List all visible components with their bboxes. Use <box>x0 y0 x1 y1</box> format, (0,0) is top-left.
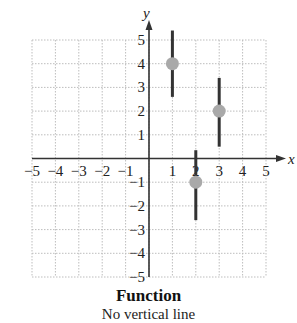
y-tick-label: 3 <box>138 79 146 95</box>
y-tick-label: −3 <box>129 222 145 238</box>
y-tick-label: −2 <box>129 198 145 214</box>
y-tick-label: 1 <box>138 127 146 143</box>
y-tick-label: −4 <box>129 245 145 261</box>
chart-subtitle: No vertical line <box>0 306 297 323</box>
y-axis-arrow-icon <box>146 20 153 30</box>
y-tick-label: 4 <box>138 56 146 72</box>
y-tick-label: 5 <box>138 32 146 48</box>
x-tick-label: −3 <box>71 163 87 179</box>
x-tick-label: −5 <box>24 163 40 179</box>
data-point <box>213 105 226 118</box>
y-tick-label: −5 <box>129 269 145 285</box>
x-tick-label: 3 <box>215 163 223 179</box>
x-tick-label: −2 <box>94 163 110 179</box>
axes <box>32 20 286 277</box>
y-tick-label: 2 <box>138 103 146 119</box>
x-axis-arrow-icon <box>276 155 286 162</box>
function-plot: −5−4−3−2−112345−5−4−3−2−112345 x y <box>0 0 297 290</box>
data-point <box>166 57 179 70</box>
x-tick-label: 4 <box>239 163 247 179</box>
data-point <box>189 176 202 189</box>
x-tick-label: 5 <box>262 163 270 179</box>
x-tick-label: 1 <box>169 163 177 179</box>
y-axis-label: y <box>141 5 150 21</box>
y-tick-label: −1 <box>129 174 145 190</box>
x-tick-label: −4 <box>47 163 63 179</box>
x-axis-label: x <box>287 151 295 167</box>
chart-title: Function <box>0 286 297 306</box>
